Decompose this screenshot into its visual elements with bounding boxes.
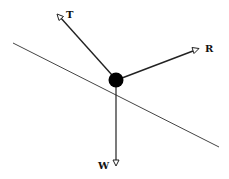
free-body-diagram: T R W <box>0 0 229 179</box>
label-W: W <box>97 160 110 171</box>
tension-vector <box>57 14 112 75</box>
arrowhead-icon <box>113 160 119 166</box>
reaction-vector <box>122 48 199 79</box>
arrowhead-icon <box>192 48 199 54</box>
label-T: T <box>66 9 74 20</box>
point-mass <box>109 73 124 88</box>
label-R: R <box>205 43 214 54</box>
